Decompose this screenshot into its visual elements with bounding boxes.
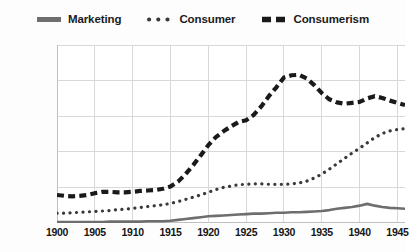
x-tick-label: 1905	[84, 226, 106, 238]
x-tick-label: 1920	[197, 226, 219, 238]
solid-line-marker	[36, 14, 62, 25]
x-tick-label: 1930	[273, 226, 295, 238]
x-tick-label: 1915	[159, 226, 181, 238]
dotted-line-marker	[147, 14, 173, 25]
x-tick-label: 1940	[349, 226, 371, 238]
axis-lines	[57, 45, 405, 223]
series-line-marketing	[57, 204, 405, 222]
plot-canvas	[57, 45, 405, 223]
x-tick-label: 1910	[122, 226, 144, 238]
series-line-consumer	[57, 129, 405, 214]
legend-item-consumer[interactable]: Consumer	[147, 13, 235, 25]
dashed-line-marker	[261, 14, 287, 25]
x-axis: 1900190519101915192019251930193519401945	[57, 226, 405, 248]
legend-label-consumer: Consumer	[179, 13, 235, 25]
series-line-consumerism	[57, 75, 405, 196]
chart-legend: Marketing Consumer Consumerism	[0, 6, 405, 32]
legend-label-marketing: Marketing	[68, 13, 121, 25]
legend-label-consumerism: Consumerism	[293, 13, 369, 25]
gridlines	[57, 45, 405, 223]
data-series	[57, 75, 405, 222]
x-tick-label: 1900	[46, 226, 68, 238]
legend-item-marketing[interactable]: Marketing	[36, 13, 121, 25]
x-tick-label: 1935	[311, 226, 333, 238]
x-tick-label: 1945	[386, 226, 408, 238]
legend-item-consumerism[interactable]: Consumerism	[261, 13, 369, 25]
plot-area	[57, 45, 405, 223]
x-tick-label: 1925	[235, 226, 257, 238]
